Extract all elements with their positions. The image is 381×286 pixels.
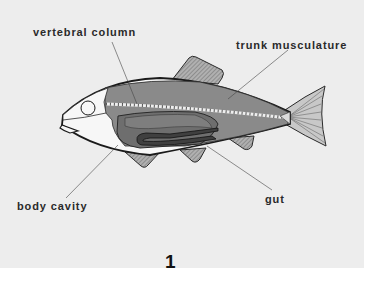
label-body-cavity: body cavity — [17, 200, 87, 212]
figure-number: 1 — [165, 251, 176, 273]
label-trunk-musculature: trunk musculature — [236, 39, 347, 51]
label-vertebral-column: vertebral column — [33, 26, 136, 38]
anal-fin-front — [180, 148, 206, 162]
eye — [81, 101, 95, 115]
leader-body-cavity — [66, 145, 118, 198]
leader-gut — [207, 146, 272, 190]
label-gut: gut — [265, 193, 285, 205]
leader-trunk-musculature — [228, 50, 288, 99]
